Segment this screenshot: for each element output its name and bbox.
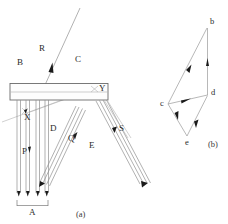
label-e: e xyxy=(185,137,189,147)
panel-a-rod-R xyxy=(40,8,80,96)
label-P: P xyxy=(22,146,27,156)
label-R: R xyxy=(39,43,45,53)
label-S: S xyxy=(119,123,124,133)
panel-b-vector-ce xyxy=(168,104,187,136)
panel-a-platform-beam xyxy=(10,84,108,101)
panel-a-strut-D xyxy=(39,106,86,187)
panel-a-strut-S xyxy=(96,100,151,188)
panel-a-strut-right-outer xyxy=(104,100,131,138)
caption-b: (b) xyxy=(208,139,218,149)
caption-a: (a) xyxy=(76,209,86,219)
panel-b-vector-cd xyxy=(168,95,208,104)
label-d: d xyxy=(211,87,216,97)
label-D: D xyxy=(50,123,57,133)
panel-a-dimension-bracket-A xyxy=(17,200,48,206)
panel-a-marker-P xyxy=(28,147,31,154)
label-X: X xyxy=(24,112,31,122)
label-c: c xyxy=(160,98,164,108)
label-Q: Q xyxy=(68,133,75,143)
label-B: B xyxy=(17,57,23,67)
label-A: A xyxy=(29,207,36,217)
panel-b-vector-cb xyxy=(168,28,207,104)
figure-container: B C R Y X D E P Q S A (a) xyxy=(0,0,228,224)
label-C: C xyxy=(75,54,81,64)
panel-b-vector-db xyxy=(206,28,209,95)
label-b: b xyxy=(210,16,214,26)
figure-drawing: B C R Y X D E P Q S A (a) xyxy=(0,0,228,224)
panel-b-vector-ed xyxy=(187,96,208,137)
label-E: E xyxy=(89,140,95,150)
label-Y: Y xyxy=(99,83,106,93)
